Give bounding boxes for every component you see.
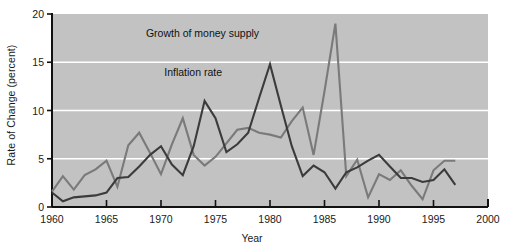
- y-axis-label-text: Rate of Change (percent): [5, 45, 17, 166]
- x-axis-label-text: Year: [241, 232, 262, 244]
- chart-figure: Rate of Change (percent) 051015201960196…: [0, 0, 530, 252]
- x-tick-label: 2000: [476, 213, 500, 225]
- y-tick-label: 10: [32, 105, 44, 117]
- x-tick-label: 1985: [313, 213, 337, 225]
- y-tick-label: 5: [38, 153, 44, 165]
- x-axis-label: Year: [0, 232, 530, 244]
- y-axis-label: Rate of Change (percent): [2, 0, 20, 210]
- x-tick-label: 1965: [95, 213, 119, 225]
- chart-canvas: 0510152019601965197019751980198519901995…: [0, 0, 530, 252]
- x-tick-label: 1975: [204, 213, 228, 225]
- x-tick-label: 1970: [149, 213, 173, 225]
- x-tick-label: 1995: [422, 213, 446, 225]
- x-tick-label: 1990: [367, 213, 391, 225]
- series-annotation: Growth of money supply: [146, 27, 260, 39]
- y-tick-label: 15: [32, 56, 44, 68]
- y-tick-label: 0: [38, 201, 44, 213]
- x-tick-label: 1980: [258, 213, 282, 225]
- x-tick-label: 1960: [40, 213, 64, 225]
- series-annotation: Inflation rate: [164, 66, 222, 78]
- y-tick-label: 20: [32, 8, 44, 20]
